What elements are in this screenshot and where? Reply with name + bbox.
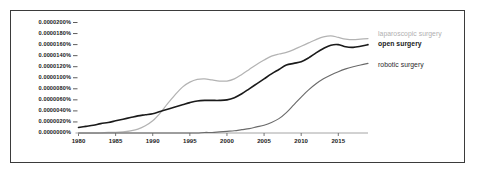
series-label-open: open surgery (378, 40, 422, 47)
x-axis-tick-label: 1990 (133, 138, 173, 144)
y-axis-tick-label: 0.0000160% (39, 41, 71, 47)
y-axis-tick-label: 0.0000200% (39, 19, 71, 25)
y-axis-tick-label: 0.0000060% (39, 96, 71, 102)
series-label-laparoscopic: laparoscopic surgery (378, 30, 442, 37)
y-axis-tick-label: 0.0000040% (39, 107, 71, 113)
x-axis-tick-label: 1985 (96, 138, 136, 144)
chart-figure: 0.0000000%0.0000020%0.0000040%0.0000060%… (0, 0, 477, 173)
x-axis-tick-label: 1995 (170, 138, 210, 144)
y-axis-tick-label: 0.0000000% (39, 129, 71, 135)
x-axis-tick-label: 2010 (281, 138, 321, 144)
x-axis-tick-label: 2000 (207, 138, 247, 144)
chart-plot-area (0, 0, 477, 173)
y-axis-tick-label: 0.0000180% (39, 30, 71, 36)
y-axis-tick-label: 0.0000100% (39, 74, 71, 80)
x-axis-tick-label: 1980 (59, 138, 99, 144)
y-axis-tick-label: 0.0000080% (39, 85, 71, 91)
x-axis-tick-label: 2015 (318, 138, 358, 144)
y-axis-tick-label: 0.0000020% (39, 118, 71, 124)
y-axis-tick-label: 0.0000120% (39, 63, 71, 69)
series-label-robotic: robotic surgery (378, 61, 424, 68)
x-axis-tick-label: 2005 (244, 138, 284, 144)
y-axis-tick-label: 0.0000140% (39, 52, 71, 58)
